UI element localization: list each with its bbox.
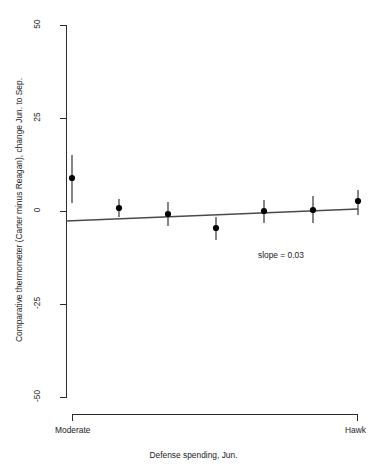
data-point-7 — [355, 190, 361, 215]
data-series — [69, 155, 361, 240]
marker — [165, 211, 171, 217]
marker — [69, 175, 75, 181]
data-point-1 — [69, 155, 75, 203]
data-point-4 — [213, 217, 219, 240]
chart-figure: Comparative thermometer (Carter minus Re… — [0, 0, 387, 470]
marker — [213, 225, 219, 231]
marker — [261, 208, 267, 214]
marker — [116, 205, 122, 211]
marker — [355, 198, 361, 204]
data-point-2 — [116, 199, 122, 217]
data-point-3 — [165, 202, 171, 226]
x-axis — [72, 415, 358, 422]
data-point-6 — [310, 196, 316, 223]
marker — [310, 207, 316, 213]
data-point-5 — [261, 200, 267, 223]
y-axis — [60, 25, 67, 398]
plot-canvas — [0, 0, 387, 470]
